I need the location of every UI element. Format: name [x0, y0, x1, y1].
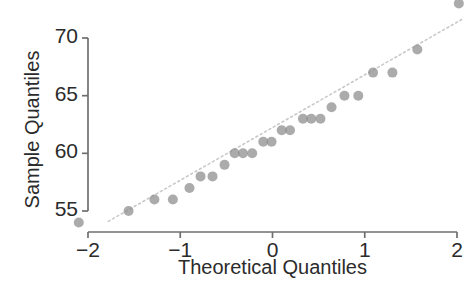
- reference-line-group: [108, 20, 461, 222]
- data-point: [387, 68, 397, 78]
- data-point: [267, 137, 277, 147]
- reference-line: [108, 20, 461, 222]
- data-point: [124, 206, 134, 216]
- data-point: [454, 0, 464, 8]
- data-point: [327, 102, 337, 112]
- data-point: [315, 114, 325, 124]
- data-point: [412, 45, 422, 55]
- data-point: [238, 148, 248, 158]
- data-point: [306, 114, 316, 124]
- data-point: [208, 171, 218, 181]
- data-point: [149, 194, 159, 204]
- qq-plot: 55606570 −2−1012 Sample Quantiles Theore…: [0, 0, 466, 284]
- data-point: [339, 91, 349, 101]
- data-point: [285, 125, 295, 135]
- data-point: [247, 148, 257, 158]
- data-point: [196, 171, 206, 181]
- y-tick-marks: [82, 38, 88, 211]
- data-point: [220, 160, 230, 170]
- y-axis-title: Sample Quantiles: [21, 20, 44, 240]
- data-point-group: [74, 0, 464, 228]
- data-point: [184, 183, 194, 193]
- data-point: [168, 194, 178, 204]
- data-point: [353, 91, 363, 101]
- data-point: [368, 68, 378, 78]
- x-axis-title: Theoretical Quantiles: [88, 256, 457, 279]
